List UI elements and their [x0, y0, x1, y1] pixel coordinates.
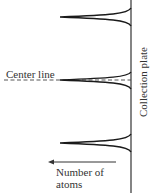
- collection-plate-label: Collection plate: [137, 47, 149, 117]
- peak-top: [60, 8, 131, 26]
- stern-gerlach-deposit-diagram: [0, 0, 155, 193]
- peak-bottom: [60, 134, 131, 152]
- number-of-atoms-label: Number of atoms: [56, 166, 126, 190]
- center-line-label: Center line: [6, 68, 55, 80]
- arrowhead-icon: [48, 160, 54, 165]
- peak-middle: [60, 72, 131, 89]
